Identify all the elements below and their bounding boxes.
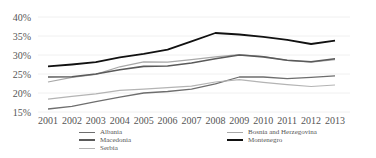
- legend-swatch-serbia: [79, 148, 95, 149]
- legend-item-serbia: Serbia: [79, 144, 131, 152]
- gridlines: [38, 17, 350, 112]
- x-tick-label: 2001: [38, 115, 58, 126]
- series-line-albania: [48, 76, 335, 109]
- legend-label-montenegro: Montenegro: [248, 136, 282, 144]
- y-axis: 15%20%25%30%35%40%: [13, 12, 31, 118]
- legend-item-macedonia: Macedonia: [79, 136, 131, 144]
- legend-item-albania: Albania: [79, 128, 131, 136]
- legend-label-macedonia: Macedonia: [100, 136, 131, 144]
- x-tick-label: 2012: [301, 115, 321, 126]
- x-tick-label: 2003: [86, 115, 106, 126]
- legend-label-albania: Albania: [100, 128, 122, 136]
- series-lines: [48, 33, 335, 109]
- y-tick-label: 35%: [13, 31, 31, 42]
- y-tick-label: 40%: [13, 12, 31, 23]
- legend-right: Bosnia and Herzegovina Montenegro: [227, 128, 317, 144]
- legend-swatch-bosnia: [227, 132, 243, 133]
- y-tick-label: 15%: [13, 107, 31, 118]
- legend-swatch-albania: [79, 132, 95, 133]
- x-tick-label: 2005: [134, 115, 154, 126]
- legend-item-montenegro: Montenegro: [227, 136, 317, 144]
- x-tick-label: 2010: [253, 115, 273, 126]
- legend-swatch-montenegro: [227, 139, 243, 141]
- x-tick-label: 2011: [277, 115, 297, 126]
- x-tick-label: 2006: [158, 115, 178, 126]
- legend-label-serbia: Serbia: [100, 144, 118, 152]
- x-tick-label: 2013: [325, 115, 345, 126]
- y-tick-label: 25%: [13, 69, 31, 80]
- y-tick-label: 20%: [13, 88, 31, 99]
- x-tick-label: 2004: [110, 115, 130, 126]
- legend-label-bosnia: Bosnia and Herzegovina: [248, 128, 317, 136]
- x-tick-label: 2002: [62, 115, 82, 126]
- x-axis: 2001200220032004200520062007200820092010…: [38, 115, 345, 126]
- x-tick-label: 2008: [205, 115, 225, 126]
- line-chart: 15%20%25%30%35%40% 200120022003200420052…: [0, 0, 376, 158]
- legend-item-bosnia: Bosnia and Herzegovina: [227, 128, 317, 136]
- y-tick-label: 30%: [13, 50, 31, 61]
- legend-swatch-macedonia: [79, 139, 95, 141]
- x-tick-label: 2009: [229, 115, 249, 126]
- legend-left: Albania Macedonia Serbia: [79, 128, 131, 152]
- x-tick-label: 2007: [182, 115, 202, 126]
